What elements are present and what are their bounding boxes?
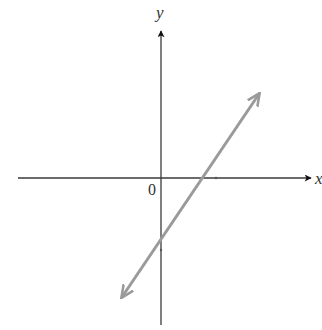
graphed-line <box>122 94 259 297</box>
graph-canvas: y x 0 <box>0 0 322 330</box>
coordinate-plane-figure: y x 0 <box>0 0 322 330</box>
y-intercept-point <box>160 249 162 251</box>
x-axis-label: x <box>314 169 322 188</box>
x-intercept-point <box>215 177 217 179</box>
origin-label: 0 <box>148 181 156 198</box>
y-axis-label: y <box>154 3 164 22</box>
